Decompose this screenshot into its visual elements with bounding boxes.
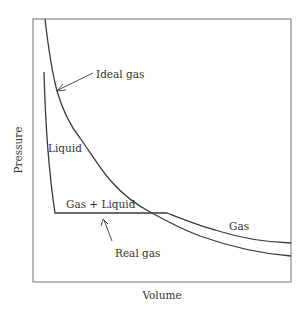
x-axis-label: Volume — [141, 289, 181, 301]
ideal-gas-curve — [45, 19, 291, 256]
ideal-gas-label: Ideal gas — [96, 68, 144, 80]
real-gas-label: Real gas — [115, 247, 160, 259]
liquid-label: Liquid — [48, 142, 82, 154]
real-gas-curve — [44, 72, 291, 243]
pv-diagram: Ideal gas Liquid Gas + Liquid Real gas G… — [0, 0, 307, 313]
gas-liquid-label: Gas + Liquid — [66, 198, 136, 210]
y-axis-label: Pressure — [12, 126, 24, 173]
gas-label: Gas — [229, 220, 249, 232]
real-gas-arrow — [101, 219, 112, 241]
ideal-gas-arrow — [57, 73, 93, 91]
